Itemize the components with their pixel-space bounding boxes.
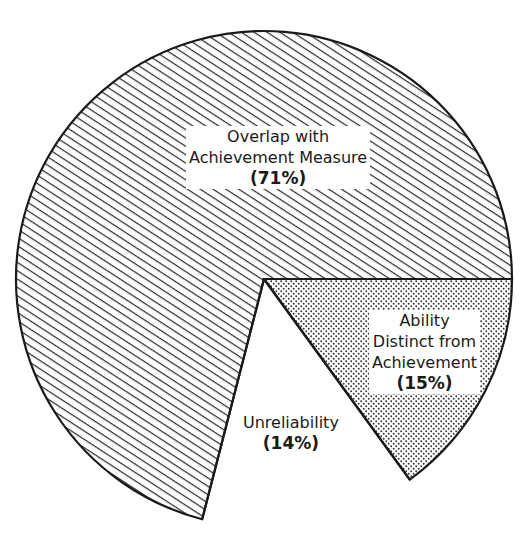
label-overlap-achievement: Overlap with Achievement Measure (71%): [186, 126, 370, 189]
label-line: Ability: [372, 310, 477, 331]
label-percent: (15%): [372, 373, 477, 394]
label-percent: (71%): [189, 168, 367, 189]
pie-chart: [0, 0, 529, 540]
label-percent: (14%): [243, 433, 339, 454]
label-unreliability: Unreliability (14%): [240, 412, 342, 454]
label-ability-distinct: Ability Distinct from Achievement (15%): [369, 310, 480, 394]
label-line: Achievement: [372, 352, 477, 373]
label-line: Overlap with: [189, 126, 367, 147]
label-line: Achievement Measure: [189, 147, 367, 168]
label-line: Unreliability: [243, 412, 339, 433]
label-line: Distinct from: [372, 331, 477, 352]
